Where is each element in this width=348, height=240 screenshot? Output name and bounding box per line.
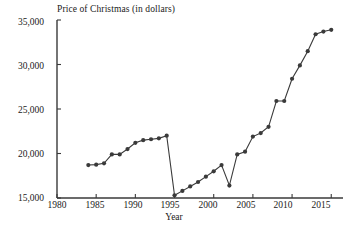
data-point	[141, 138, 145, 142]
data-point	[274, 99, 278, 103]
data-point	[196, 180, 200, 184]
data-point	[219, 163, 223, 167]
data-series-line	[88, 30, 331, 196]
data-point	[165, 134, 169, 138]
data-point	[313, 32, 317, 36]
data-point	[251, 134, 255, 138]
data-point	[306, 49, 310, 53]
data-point	[125, 147, 129, 151]
x-axis-label: Year	[0, 212, 348, 222]
price-of-christmas-line-chart: Price of Christmas (in dollars) 35,000 3…	[0, 0, 348, 240]
data-point	[180, 189, 184, 193]
data-point	[290, 77, 294, 81]
data-point	[188, 184, 192, 188]
data-point	[102, 161, 106, 165]
data-point	[321, 29, 325, 33]
data-point	[227, 183, 231, 187]
data-point	[133, 141, 137, 145]
axis-lines	[57, 20, 343, 198]
data-point	[266, 125, 270, 129]
data-point	[243, 150, 247, 154]
data-point	[118, 152, 122, 156]
data-point	[94, 163, 98, 167]
data-point	[235, 152, 239, 156]
data-point	[298, 63, 302, 67]
plot-area	[0, 0, 348, 240]
data-point-markers	[86, 28, 333, 198]
data-point	[259, 131, 263, 135]
data-point	[204, 175, 208, 179]
data-point	[329, 28, 333, 32]
data-point	[110, 152, 114, 156]
data-point	[282, 99, 286, 103]
data-point	[149, 137, 153, 141]
data-point	[212, 169, 216, 173]
data-point	[86, 163, 90, 167]
data-point	[157, 136, 161, 140]
data-point	[172, 193, 176, 197]
